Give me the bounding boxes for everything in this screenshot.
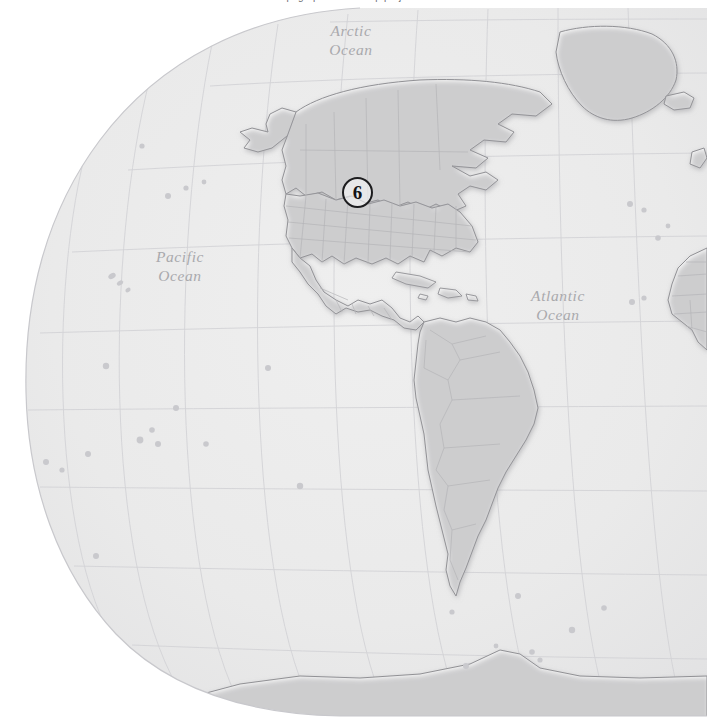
- arctic-ocean-label-line2: Ocean: [329, 41, 372, 58]
- pacific-ocean-label-line2: Ocean: [158, 267, 201, 284]
- ocean-surface: [0, 0, 707, 721]
- arctic-ocean-label-line1: Arctic: [330, 22, 372, 39]
- location-marker-6-label: 6: [353, 183, 363, 203]
- location-marker-6[interactable]: 6: [342, 177, 373, 208]
- atlantic-ocean-label-line1: Atlantic: [530, 287, 585, 304]
- world-map-canvas[interactable]: Arctic Ocean Pacific Ocean Atlantic Ocea…: [0, 0, 707, 721]
- world-map-locator-figure: topographic relief map projection: [0, 0, 707, 721]
- pacific-ocean-label-line1: Pacific: [155, 248, 204, 265]
- atlantic-ocean-label-line2: Ocean: [536, 306, 579, 323]
